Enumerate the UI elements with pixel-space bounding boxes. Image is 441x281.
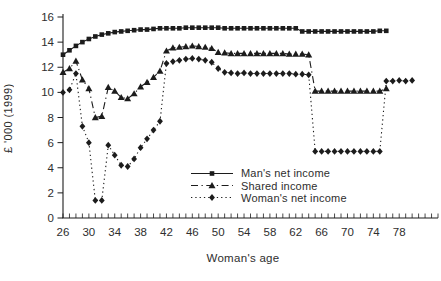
series-shared-income-marker bbox=[144, 79, 151, 85]
series-woman-s-net-income-marker bbox=[118, 162, 124, 169]
series-shared-income-marker bbox=[60, 69, 67, 75]
series-woman-s-net-income-marker bbox=[383, 78, 389, 85]
series-woman-s-net-income-marker bbox=[319, 148, 325, 155]
series-woman-s-net-income-marker bbox=[67, 86, 73, 93]
series-woman-s-net-income-marker bbox=[183, 56, 189, 63]
series-man-s-net-income-marker bbox=[281, 26, 286, 31]
y-tick-label: 10 bbox=[41, 86, 54, 98]
legend: Man's net incomeShared incomeWoman's net… bbox=[190, 167, 347, 204]
series-woman-s-net-income-marker bbox=[144, 135, 150, 142]
series-man-s-net-income-marker bbox=[125, 29, 130, 34]
series-woman-s-net-income-marker bbox=[351, 148, 357, 155]
series-shared-income-marker bbox=[85, 85, 92, 91]
x-tick-label: 38 bbox=[134, 226, 147, 238]
legend-label: Man's net income bbox=[241, 167, 330, 179]
x-tick-label: 58 bbox=[263, 226, 276, 238]
x-tick-label: 74 bbox=[367, 226, 380, 238]
y-tick-label: 8 bbox=[48, 112, 54, 124]
series-shared-income-marker bbox=[299, 51, 306, 57]
series-woman-s-net-income-marker bbox=[306, 71, 312, 78]
x-tick-label: 42 bbox=[160, 226, 173, 238]
series-man-s-net-income-marker bbox=[119, 29, 124, 34]
series-man-s-net-income-marker bbox=[99, 32, 104, 37]
series-man-s-net-income-marker bbox=[306, 29, 311, 34]
diamond-icon bbox=[209, 195, 215, 202]
series-woman-s-net-income-marker bbox=[176, 57, 182, 64]
y-tick-label: 16 bbox=[41, 11, 54, 23]
x-tick-label: 66 bbox=[315, 226, 328, 238]
series-woman-s-net-income-marker bbox=[403, 78, 409, 85]
series-shared-income-marker bbox=[292, 51, 299, 57]
series-man-s-net-income-marker bbox=[332, 29, 337, 34]
diamond-icon bbox=[190, 192, 234, 203]
series-man-s-net-income-marker bbox=[300, 29, 305, 34]
x-tick-label: 46 bbox=[186, 226, 199, 238]
y-tick-label: 12 bbox=[41, 61, 54, 73]
series-shared-income-marker bbox=[189, 42, 196, 48]
series-woman-s-net-income-marker bbox=[73, 70, 79, 77]
legend-label: Shared income bbox=[241, 180, 318, 192]
series-woman-s-net-income-marker bbox=[60, 89, 66, 96]
series-shared-income-marker bbox=[98, 113, 105, 119]
series-man-s-net-income-marker bbox=[190, 25, 195, 30]
series-man-s-net-income-marker bbox=[222, 26, 227, 31]
series-man-s-net-income-marker bbox=[326, 29, 331, 34]
series-shared-income-marker bbox=[79, 76, 86, 82]
series-woman-s-net-income-marker bbox=[131, 156, 137, 163]
series-man-s-net-income-marker bbox=[255, 26, 260, 31]
x-tick-label: 70 bbox=[341, 226, 354, 238]
legend-label: Woman's net income bbox=[241, 192, 347, 204]
y-tick-label: 0 bbox=[48, 212, 54, 224]
series-shared-income-marker bbox=[208, 45, 215, 51]
series-shared-income-line bbox=[63, 46, 386, 118]
series-man-s-net-income-marker bbox=[235, 26, 240, 31]
series-woman-s-net-income-marker bbox=[280, 70, 286, 77]
series-man-s-net-income-marker bbox=[216, 25, 221, 30]
series-shared-income-marker bbox=[156, 68, 163, 74]
series-woman-s-net-income-marker bbox=[273, 70, 279, 77]
series-woman-s-net-income-marker bbox=[92, 197, 98, 204]
series-man-s-net-income-marker bbox=[248, 26, 253, 31]
series-shared-income-marker bbox=[105, 84, 112, 90]
legend-item-man-s-net-income: Man's net income bbox=[190, 167, 347, 179]
series-man-s-net-income-marker bbox=[184, 25, 189, 30]
x-tick-label: 62 bbox=[289, 226, 302, 238]
series-man-s-net-income-marker bbox=[138, 27, 143, 32]
series-man-s-net-income-marker bbox=[164, 26, 169, 31]
chart-canvas: 0246810121416263034384246505458626670747… bbox=[0, 0, 441, 281]
series-man-s-net-income-marker bbox=[274, 26, 279, 31]
series-man-s-net-income-marker bbox=[74, 44, 79, 49]
lifetime-income-figure: 0246810121416263034384246505458626670747… bbox=[0, 0, 441, 281]
series-shared-income-marker bbox=[338, 88, 345, 94]
series-woman-s-net-income-marker bbox=[299, 71, 305, 78]
series-woman-s-net-income-marker bbox=[325, 148, 331, 155]
series-woman-s-net-income-marker bbox=[338, 148, 344, 155]
series-man-s-net-income-marker bbox=[378, 29, 383, 34]
series-man-s-net-income-marker bbox=[319, 29, 324, 34]
y-tick-label: 2 bbox=[48, 187, 54, 199]
series-shared-income-marker bbox=[163, 47, 170, 53]
x-tick-label: 54 bbox=[238, 226, 251, 238]
series-man-s-net-income-marker bbox=[171, 26, 176, 31]
series-shared-income-marker bbox=[202, 44, 209, 50]
series-man-s-net-income-marker bbox=[339, 29, 344, 34]
series-woman-s-net-income-marker bbox=[196, 56, 202, 63]
series-woman-s-net-income-marker bbox=[261, 70, 267, 77]
series-woman-s-net-income-marker bbox=[409, 77, 415, 84]
series-woman-s-net-income-marker bbox=[241, 70, 247, 77]
x-tick-label: 50 bbox=[212, 226, 225, 238]
series-woman-s-net-income-marker bbox=[79, 123, 85, 130]
triangle-icon bbox=[190, 180, 234, 191]
series-man-s-net-income-marker bbox=[106, 31, 111, 36]
series-shared-income-marker bbox=[111, 88, 118, 94]
series-man-s-net-income-marker bbox=[358, 29, 363, 34]
series-man-s-net-income-marker bbox=[229, 26, 234, 31]
series-woman-s-net-income-marker bbox=[164, 60, 170, 67]
x-tick-label: 26 bbox=[57, 226, 70, 238]
series-woman-s-net-income-marker bbox=[99, 197, 105, 204]
series-man-s-net-income-marker bbox=[352, 29, 357, 34]
series-woman-s-net-income-marker bbox=[390, 78, 396, 85]
series-man-s-net-income-marker bbox=[293, 26, 298, 31]
series-man-s-net-income-marker bbox=[203, 25, 208, 30]
series-woman-s-net-income-marker bbox=[157, 118, 163, 125]
